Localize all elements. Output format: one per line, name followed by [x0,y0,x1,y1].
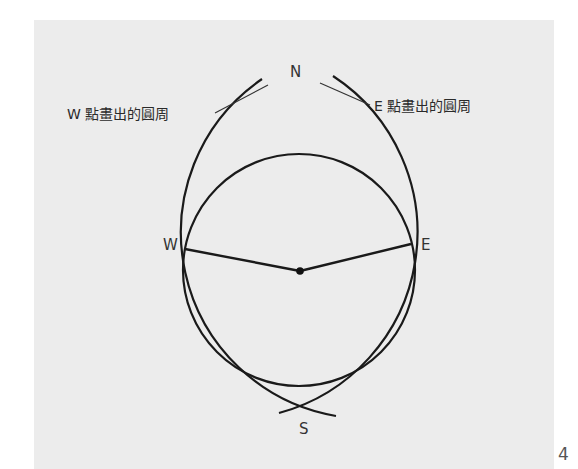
label-west: W [163,236,178,254]
east-circle-caption: E 點畫出的圓周 [374,98,471,114]
label-east: E [421,236,430,254]
compass-circle-diagram: N S W E W 點畫出的圓周 E 點畫出的圓周 [0,0,578,469]
radius-east [300,244,411,271]
label-south: S [299,420,309,438]
center-dot [296,267,304,275]
page-number: 4 [558,444,569,464]
west-point-arc [279,76,417,413]
east-caption-leader [320,83,370,105]
west-caption-leader [215,85,268,113]
label-north: N [290,63,301,81]
west-circle-caption: W 點畫出的圓周 [67,106,169,122]
radius-west [185,249,300,271]
east-point-arc [181,79,336,416]
